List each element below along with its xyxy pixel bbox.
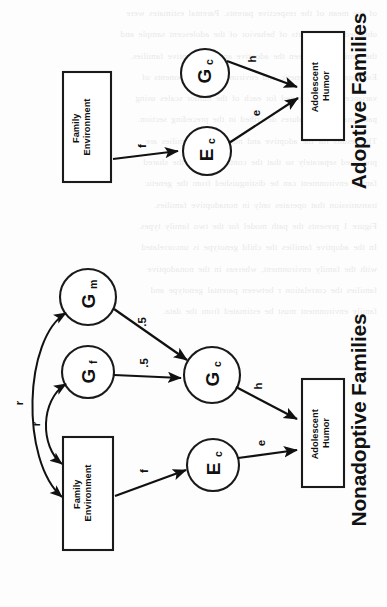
path-label-h: h — [252, 382, 264, 389]
path-label-f: f — [138, 469, 150, 473]
path-r-gm: r — [13, 313, 66, 497]
path-gf-to-gc: .5 — [114, 358, 181, 378]
path-gm-to-gc: .5 — [114, 309, 187, 360]
node-letter: G — [78, 294, 99, 309]
path-label-h: h — [246, 55, 258, 62]
path-label-e: e — [250, 110, 262, 116]
path-h-nonadoptive: h — [236, 382, 297, 419]
node-subscript: m — [87, 280, 99, 289]
path-e-adoptive: e — [229, 98, 298, 143]
node-subscript: f — [87, 360, 99, 364]
panel-adoptive: Family Environment G c E c — [63, 13, 370, 189]
node-gm-nonadoptive[interactable]: G m — [60, 269, 116, 325]
node-subscript: c — [211, 361, 223, 367]
path-f-adoptive: f — [113, 144, 178, 159]
node-letter: E — [203, 463, 224, 476]
node-label-line2: Humor — [321, 418, 331, 448]
node-subscript: c — [212, 451, 224, 457]
panel-nonadoptive: G m G f Family Environment — [13, 269, 370, 550]
node-family-environment-adoptive[interactable]: Family Environment — [63, 72, 111, 182]
node-label-line1: Family — [71, 113, 81, 143]
path-label-half-gm: .5 — [136, 317, 148, 327]
path-label-half-gf: .5 — [138, 358, 150, 368]
node-subscript: c — [205, 138, 217, 144]
node-label-line1: Adolescent — [310, 62, 320, 112]
path-label-e: e — [255, 440, 267, 446]
path-e-nonadoptive: e — [238, 440, 297, 458]
figure-container: of the mean of the respective parents. P… — [0, 0, 387, 607]
node-letter: G — [194, 69, 215, 84]
path-label-f: f — [136, 144, 148, 148]
panel-title-nonadoptive: Nonadoptive Families — [347, 313, 370, 526]
node-label-line1: Adolescent — [310, 409, 320, 459]
node-subscript: c — [203, 59, 215, 65]
path-label-r-gf: r — [30, 421, 42, 426]
node-label-line2: Environment — [82, 99, 92, 156]
node-label-line2: Environment — [83, 465, 93, 522]
path-f-nonadoptive: f — [115, 469, 186, 496]
node-label-line2: Humor — [321, 71, 331, 101]
node-ec-adoptive[interactable]: E c — [183, 127, 231, 175]
node-gf-nonadoptive[interactable]: G f — [62, 346, 114, 398]
node-ec-nonadoptive[interactable]: E c — [187, 439, 239, 491]
node-letter: G — [78, 369, 99, 384]
path-label-r-gm: r — [13, 400, 25, 405]
path-r-gf: r — [30, 384, 66, 464]
node-gc-adoptive[interactable]: G c — [181, 49, 229, 97]
node-letter: G — [202, 372, 223, 387]
node-family-environment-nonadoptive[interactable]: Family Environment — [63, 437, 113, 550]
path-diagram: Family Environment G c E c — [0, 0, 387, 607]
node-letter: E — [196, 149, 217, 162]
path-h-adoptive: h — [227, 55, 297, 87]
node-gc-nonadoptive[interactable]: G c — [184, 347, 240, 403]
node-label-line1: Family — [72, 479, 82, 509]
node-outcome-adoptive[interactable]: Adolescent Humor — [302, 32, 344, 140]
panel-title-adoptive: Adoptive Families — [347, 13, 370, 189]
node-outcome-nonadoptive[interactable]: Adolescent Humor — [302, 379, 344, 487]
